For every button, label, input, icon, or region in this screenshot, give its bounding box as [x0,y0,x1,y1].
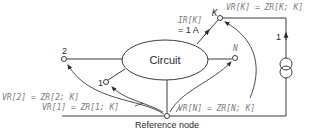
node-k-label: K [211,8,218,18]
wire-node-1 [108,69,125,80]
source-current-label: 1 [276,32,281,42]
node-k-terminal [218,16,223,21]
current-source-icon [280,58,292,78]
circuit-diagram: Circuit 2 1 N K IR[K] = 1 A 1 VR[K] = ZR… [0,0,323,130]
node-1-label: 1 [98,78,103,88]
equation-vr-n: VR[N] = ZR[N; K] [178,104,255,113]
reference-node-terminal [165,114,170,119]
current-value-label: = 1 A [178,25,199,35]
reference-node-label: Reference node [135,120,199,130]
equation-vr-k: VR[K] = ZR[K; K] [226,3,303,12]
node-2-label: 2 [62,46,67,56]
node-1-terminal [104,80,109,85]
current-label: IR[K] [178,16,202,25]
node-2-terminal [62,57,67,62]
circuit-label: Circuit [149,54,180,66]
current-arrow-icon [203,30,209,37]
voltage-arrow-node-1-icon [112,87,163,112]
equation-vr-1: VR[1] = ZR[1; K] [42,103,119,112]
voltage-arrow-node-k-icon [225,22,256,98]
node-n-label: N [232,44,238,53]
equation-vr-2: VR[2] = ZR[2; K] [2,93,79,102]
node-n-terminal [233,56,238,61]
